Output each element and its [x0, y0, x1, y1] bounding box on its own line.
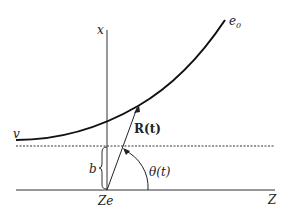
- x-axis-label: x: [97, 23, 104, 37]
- velocity-label: v: [13, 127, 20, 141]
- scattering-diagram: x e0 v b Ze Z R(t) θ(t): [0, 0, 289, 216]
- impact-parameter-label: b: [89, 162, 97, 176]
- nucleus-label: Ze: [97, 194, 113, 208]
- z-axis-label: Z: [267, 193, 277, 207]
- position-vector-label: R(t): [134, 122, 161, 136]
- final-direction-label: e0: [229, 14, 241, 30]
- angle-arc: [124, 150, 148, 190]
- impact-parameter-brace: [99, 147, 107, 189]
- arc-arrowhead-icon: [123, 148, 130, 155]
- trajectory-curve: [16, 20, 225, 140]
- angle-label: θ(t): [149, 165, 171, 179]
